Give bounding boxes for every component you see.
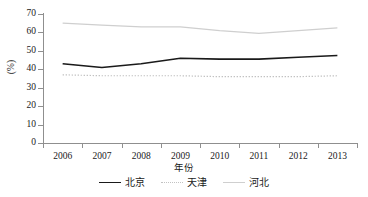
series-line-河北	[63, 23, 338, 33]
legend-label: 河北	[249, 177, 269, 188]
legend-swatch-icon	[99, 182, 121, 183]
legend-item-天津[interactable]: 天津	[161, 177, 207, 188]
series-line-北京	[63, 55, 338, 67]
series-layer	[0, 0, 368, 197]
chart-legend: 北京天津河北	[0, 177, 368, 188]
series-line-天津	[63, 75, 338, 77]
legend-label: 北京	[125, 177, 145, 188]
legend-item-河北[interactable]: 河北	[223, 177, 269, 188]
legend-swatch-icon	[223, 182, 245, 183]
legend-item-北京[interactable]: 北京	[99, 177, 145, 188]
legend-label: 天津	[187, 177, 207, 188]
legend-swatch-icon	[161, 182, 183, 183]
line-chart: 706050403020100 200620072008200920102011…	[0, 0, 368, 197]
